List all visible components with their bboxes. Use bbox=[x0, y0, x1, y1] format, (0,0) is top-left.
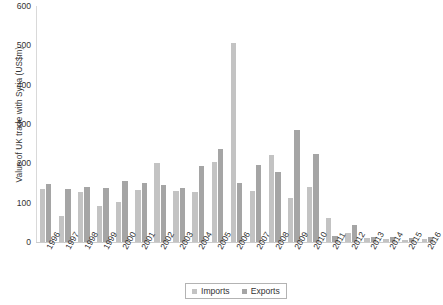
bar-exports-2007 bbox=[256, 165, 261, 242]
legend-label-imports: Imports bbox=[201, 286, 230, 296]
y-axis-title: Value of UK trade with Syria (US$m) bbox=[15, 0, 24, 230]
legend-item-imports: Imports bbox=[192, 286, 230, 296]
bar-imports-2005 bbox=[212, 162, 217, 242]
bar-group bbox=[284, 6, 303, 242]
legend-swatch-exports-icon bbox=[242, 289, 247, 294]
bar-group bbox=[303, 6, 322, 242]
bar-group bbox=[112, 6, 131, 242]
plot-area: 0100200300400500600 bbox=[36, 6, 437, 242]
bar-group bbox=[36, 6, 55, 242]
bar-exports-2009 bbox=[294, 130, 299, 242]
bar-groups bbox=[36, 6, 437, 242]
bar-group bbox=[151, 6, 170, 242]
bar-exports-2005 bbox=[218, 149, 223, 242]
legend-item-exports: Exports bbox=[242, 286, 280, 296]
y-axis-tick-label: 500 bbox=[17, 40, 31, 50]
y-axis-tick-label: 0 bbox=[26, 237, 31, 247]
legend-swatch-imports-icon bbox=[192, 289, 197, 294]
bar-group bbox=[265, 6, 284, 242]
bar-imports-2013 bbox=[364, 238, 369, 242]
bar-group bbox=[55, 6, 74, 242]
bar-group bbox=[93, 6, 112, 242]
y-axis-tick-label: 600 bbox=[17, 1, 31, 11]
bar-group bbox=[170, 6, 189, 242]
bar-exports-2010 bbox=[313, 154, 318, 243]
bar-group bbox=[227, 6, 246, 242]
bar-imports-1996 bbox=[40, 189, 45, 242]
bar-group bbox=[246, 6, 265, 242]
chart-legend: Imports Exports bbox=[185, 283, 287, 299]
legend-label-exports: Exports bbox=[251, 286, 280, 296]
y-axis-tick-label: 200 bbox=[17, 158, 31, 168]
y-axis-tick-label: 400 bbox=[17, 80, 31, 90]
bar-group bbox=[399, 6, 418, 242]
bar-imports-2002 bbox=[154, 163, 159, 242]
bar-group bbox=[74, 6, 93, 242]
bar-group bbox=[208, 6, 227, 242]
bar-imports-2014 bbox=[383, 239, 388, 242]
bar-group bbox=[361, 6, 380, 242]
bar-group bbox=[418, 6, 437, 242]
bar-imports-2008 bbox=[269, 155, 274, 242]
bar-group bbox=[342, 6, 361, 242]
bar-group bbox=[131, 6, 150, 242]
bar-group bbox=[322, 6, 341, 242]
bar-imports-2006 bbox=[231, 43, 236, 242]
bar-exports-2008 bbox=[275, 172, 280, 242]
y-axis-tick-label: 300 bbox=[17, 119, 31, 129]
bar-group bbox=[380, 6, 399, 242]
bar-group bbox=[189, 6, 208, 242]
y-axis-tick-label: 100 bbox=[17, 198, 31, 208]
